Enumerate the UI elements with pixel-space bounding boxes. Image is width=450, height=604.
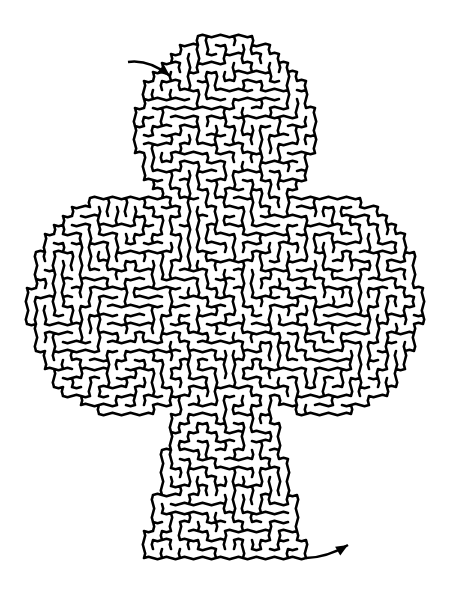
finish-arrow-icon bbox=[306, 545, 348, 558]
maze-walls bbox=[26, 35, 424, 559]
club-maze bbox=[0, 0, 450, 604]
